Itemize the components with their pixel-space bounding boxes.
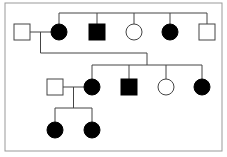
pedigree-chart xyxy=(0,0,227,157)
unaffected-male-ii-1 xyxy=(47,79,63,95)
affected-female-ii-2 xyxy=(84,79,100,95)
unaffected-male-i-1 xyxy=(14,24,30,40)
affected-male-ii-3 xyxy=(121,79,137,95)
unaffected-female-ii-4 xyxy=(158,79,174,95)
affected-female-ii-5 xyxy=(194,79,210,95)
affected-female-i-5 xyxy=(162,24,178,40)
frame xyxy=(5,3,222,151)
affected-female-i-2 xyxy=(51,24,67,40)
unaffected-male-i-6 xyxy=(199,24,215,40)
affected-male-i-3 xyxy=(89,24,105,40)
affected-female-iii-1 xyxy=(47,122,63,138)
unaffected-female-i-4 xyxy=(126,24,142,40)
affected-female-iii-2 xyxy=(84,122,100,138)
